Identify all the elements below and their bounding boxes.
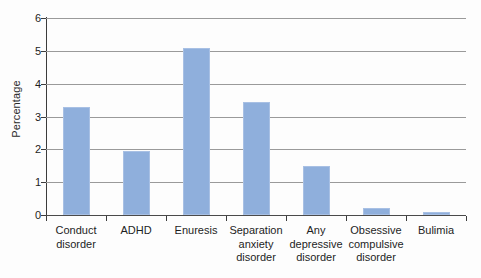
- x-axis-tick-mark: [226, 216, 227, 221]
- x-axis-category-label-line: Obsessive: [346, 224, 406, 238]
- x-axis-tick-mark: [346, 216, 347, 221]
- x-axis-category-label-line: depressive: [286, 238, 346, 252]
- y-axis-tick-label: 0: [11, 209, 41, 221]
- x-axis-category-label: Enuresis: [166, 224, 226, 238]
- x-axis-category-label: Obsessivecompulsivedisorder: [346, 224, 406, 265]
- x-axis-tick-mark: [166, 216, 167, 221]
- x-axis-category-label-line: Separation: [226, 224, 286, 238]
- bar: [123, 151, 150, 215]
- x-axis-tick-mark: [46, 216, 47, 221]
- x-axis-category-label-line: disorder: [226, 251, 286, 265]
- x-axis-category-label: Conductdisorder: [46, 224, 106, 251]
- x-axis-category-label-line: disorder: [46, 238, 106, 252]
- y-axis-tick-label: 2: [11, 143, 41, 155]
- x-axis-tick-mark: [286, 216, 287, 221]
- x-axis-category-label: Separationanxietydisorder: [226, 224, 286, 265]
- bar-chart: Percentage 0123456 ConductdisorderADHDEn…: [0, 0, 481, 278]
- x-axis-category-label: ADHD: [106, 224, 166, 238]
- x-axis-category-label-line: disorder: [346, 251, 406, 265]
- bar: [183, 48, 210, 215]
- bar: [423, 212, 450, 215]
- x-axis-category-label-line: Enuresis: [166, 224, 226, 238]
- x-axis-tick-mark: [466, 216, 467, 221]
- y-axis-tick-label: 4: [11, 78, 41, 90]
- bar: [303, 166, 330, 215]
- x-axis-category-label-line: disorder: [286, 251, 346, 265]
- x-axis-category-label-line: ADHD: [106, 224, 166, 238]
- y-axis-tick-label: 3: [11, 111, 41, 123]
- x-axis-category-label-line: Conduct: [46, 224, 106, 238]
- x-axis-category-label: Anydepressivedisorder: [286, 224, 346, 265]
- y-axis-tick-label: 1: [11, 176, 41, 188]
- bar: [63, 107, 90, 215]
- x-axis-category-label-line: anxiety: [226, 238, 286, 252]
- x-axis-category-label-line: compulsive: [346, 238, 406, 252]
- x-axis-category-label: Bulimia: [406, 224, 466, 238]
- gridline-6: [46, 18, 466, 19]
- x-axis-category-label-line: Bulimia: [406, 224, 466, 238]
- x-axis-tick-mark: [406, 216, 407, 221]
- y-axis-tick-label: 5: [11, 45, 41, 57]
- gridline-5: [46, 51, 466, 52]
- gridline-0: [46, 215, 466, 216]
- x-axis-tick-mark: [106, 216, 107, 221]
- plot-area: [46, 18, 466, 215]
- bar: [243, 102, 270, 215]
- bar: [363, 208, 390, 215]
- x-axis-category-label-line: Any: [286, 224, 346, 238]
- y-axis-tick-label: 6: [11, 12, 41, 24]
- gridline-4: [46, 84, 466, 85]
